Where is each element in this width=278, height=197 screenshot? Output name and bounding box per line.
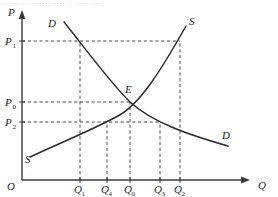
- quantity-tick-label-q0: Q 0: [124, 183, 136, 197]
- x-axis-arrow-icon: [241, 177, 250, 184]
- price-label-base-p1: P: [4, 35, 12, 47]
- price-label-base-p2: P: [4, 116, 12, 128]
- demand-curve-label-start: D: [47, 17, 56, 29]
- quantity-label-sub-q2: 2: [182, 190, 186, 197]
- figure-screenshot: ··· ······ ······ ····· ·· ···· ····: [0, 0, 278, 197]
- supply-curve: [30, 26, 186, 157]
- quantity-label-sub-q0: 0: [132, 190, 136, 197]
- price-label-base-p0: P: [4, 96, 12, 108]
- price-tick-label-p2: P 2: [4, 116, 17, 131]
- supply-curve-label-start: S: [25, 153, 31, 165]
- equilibrium-point-label: E: [124, 83, 132, 95]
- price-label-sub-p2: 2: [13, 123, 17, 131]
- tick-marks-group: [19, 41, 180, 183]
- price-tick-labels-group: P 1 P 0 P 2: [4, 35, 17, 131]
- price-tick-label-p1: P 1: [4, 35, 17, 50]
- price-tick-label-p0: P 0: [4, 96, 17, 111]
- quantity-label-sub-q4: 4: [109, 190, 113, 197]
- demand-curve-label-end: D: [221, 129, 230, 141]
- guide-lines-group: [22, 41, 180, 180]
- quantity-tick-label-q3: Q 3: [154, 183, 166, 197]
- origin-label: O: [7, 180, 15, 192]
- quantity-tick-label-q4: Q 4: [101, 183, 113, 197]
- y-axis-arrow-icon: [19, 10, 26, 19]
- price-label-sub-p0: 0: [13, 103, 17, 111]
- supply-curve-label-end: S: [189, 15, 195, 27]
- x-axis-label: Q: [258, 179, 266, 191]
- quantity-tick-labels-group: Q 1 Q 4 Q 0 Q 3 Q 2: [74, 183, 186, 197]
- quantity-label-sub-q3: 3: [162, 190, 166, 197]
- supply-demand-chart: P Q O P 1 P 0 P 2 Q 1 Q: [0, 0, 278, 197]
- y-axis-label: P: [7, 6, 15, 18]
- quantity-label-sub-q1: 1: [82, 190, 86, 197]
- quantity-tick-label-q1: Q 1: [74, 183, 86, 197]
- price-label-sub-p1: 1: [13, 42, 17, 50]
- axes-group: [19, 10, 250, 183]
- quantity-tick-label-q2: Q 2: [174, 183, 186, 197]
